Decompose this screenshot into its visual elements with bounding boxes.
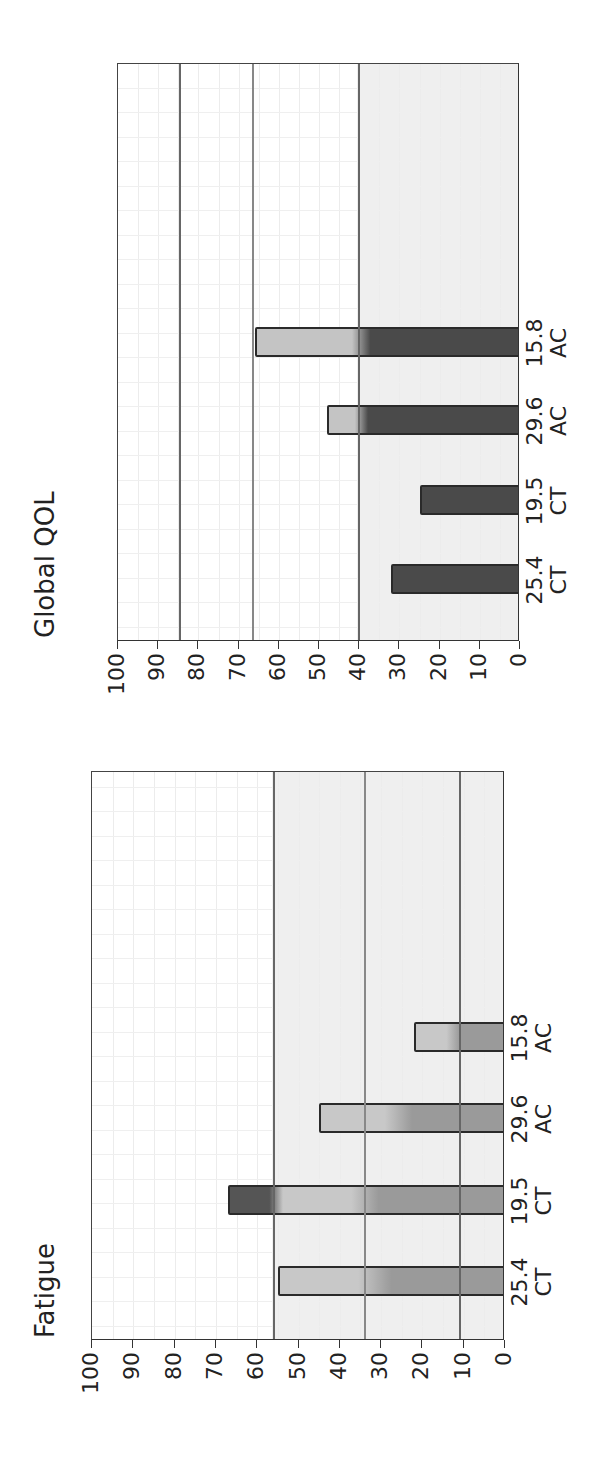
category-group: AC [547,308,571,378]
gridline [118,529,518,530]
gridline [92,934,503,935]
category-value: 19.5 [523,466,547,536]
gridline [118,554,518,555]
gridline [118,137,518,138]
gridline [118,235,518,236]
qol-plot-area [117,63,519,641]
y-tick-label: 60 [267,653,289,703]
y-tick-label: 70 [204,1352,226,1402]
qol-panel: Global QOL 1009080706050403020100 25.4CT… [0,0,596,738]
gridline [92,1057,503,1058]
category-value: 19.5 [508,1166,532,1236]
gridline [118,284,518,285]
category-value: 15.8 [508,1003,532,1073]
gridline [113,772,114,1339]
y-tick-label: 20 [428,653,450,703]
gridline [118,309,518,310]
qol-title: Global QOL [30,491,60,638]
bar [391,564,519,594]
y-tick [398,641,399,649]
category-group: AC [532,1084,556,1154]
gridline [118,211,518,212]
y-tick [463,1340,464,1348]
category-group: AC [547,386,571,456]
gridline [118,88,518,89]
y-tick [157,641,158,649]
y-tick [215,1340,216,1348]
gridline [92,1302,503,1303]
fatigue-title: Fatigue [30,1243,60,1338]
y-tick [519,641,520,649]
y-tick [421,1340,422,1348]
reference-line [358,64,360,640]
gridline [92,812,503,813]
y-tick-label: 50 [287,1352,309,1402]
y-tick [439,641,440,649]
y-tick [339,1340,340,1348]
y-tick [256,1340,257,1348]
gridline [92,1179,503,1180]
y-tick-label: 40 [347,653,369,703]
gridline [92,787,503,788]
y-tick [278,641,279,649]
y-tick [132,1340,133,1348]
bar [327,405,519,435]
category-value: 25.4 [523,545,547,615]
gridline [118,186,518,187]
y-tick [380,1340,381,1348]
x-category-label: 19.5CT [523,466,571,536]
x-category-label: 15.8AC [523,308,571,378]
gridline [237,772,238,1339]
gridline [484,772,485,1339]
y-tick [358,641,359,649]
gridline [422,772,423,1339]
y-tick [238,641,239,649]
fatigue-panel: Fatigue 1009080706050403020100 25.4CT19.… [0,738,596,1478]
bar [228,1185,504,1215]
figure: Fatigue 1009080706050403020100 25.4CT19.… [0,0,596,1478]
category-group: CT [532,1166,556,1236]
y-tick-label: 0 [493,1352,515,1402]
gridline [118,480,518,481]
category-group: CT [547,545,571,615]
gridline [118,113,518,114]
y-tick [91,1340,92,1348]
y-tick [318,641,319,649]
y-tick-label: 80 [186,653,208,703]
category-value: 15.8 [523,308,547,378]
gridline [92,1253,503,1254]
y-tick-label: 30 [369,1352,391,1402]
y-tick-label: 50 [307,653,329,703]
y-tick-label: 90 [146,653,168,703]
category-value: 29.6 [508,1084,532,1154]
gridline [118,358,518,359]
x-category-label: 25.4CT [523,545,571,615]
gridline [381,772,382,1339]
gridline [92,1155,503,1156]
y-tick [479,641,480,649]
gridline [443,772,444,1339]
x-category-label: 15.8AC [508,1003,556,1073]
fatigue-plot-area [91,771,504,1340]
reference-line [179,64,181,640]
category-value: 29.6 [523,386,547,456]
reference-line [252,64,254,640]
shaded-region [272,772,503,1339]
y-tick [174,1340,175,1348]
gridline [319,772,320,1339]
gridline [92,1008,503,1009]
reference-line [459,772,461,1339]
y-tick-label: 70 [227,653,249,703]
gridline [92,959,503,960]
bar [278,1266,504,1296]
y-tick-label: 100 [80,1352,102,1402]
y-tick-label: 10 [468,653,490,703]
gridline [278,772,279,1339]
bar [420,485,520,515]
gridline [118,260,518,261]
gridline [299,772,300,1339]
x-category-label: 25.4CT [508,1247,556,1317]
y-tick-label: 40 [328,1352,350,1402]
y-tick [117,641,118,649]
y-tick-label: 10 [452,1352,474,1402]
